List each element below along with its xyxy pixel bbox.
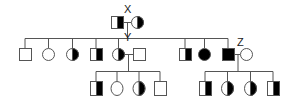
- z-child-3: [245, 82, 257, 96]
- y-child-4: [155, 82, 167, 96]
- x-father: [112, 17, 124, 29]
- label-x: X: [124, 3, 132, 15]
- y-child-1: [91, 82, 103, 96]
- gen2-female-2: [43, 49, 55, 61]
- z-male: [223, 49, 235, 61]
- z-child-2: [222, 82, 234, 96]
- gen2-female-8: [199, 49, 211, 61]
- pedigree-chart: X Y Z: [0, 0, 296, 103]
- y-spouse: [134, 49, 146, 61]
- z-spouse: [241, 49, 253, 61]
- z-child-1: [200, 82, 212, 96]
- gen2-male-4: [91, 49, 103, 61]
- gen2-male-7: [180, 49, 192, 61]
- gen2-female-3: [67, 49, 79, 61]
- z-child-4: [268, 82, 280, 96]
- label-y: Y: [124, 31, 132, 43]
- y-child-3: [133, 82, 145, 96]
- gen2-male-1: [20, 49, 32, 61]
- label-z: Z: [237, 36, 244, 48]
- y-child-2: [111, 82, 123, 96]
- y-female: [113, 49, 125, 61]
- x-mother: [132, 17, 144, 29]
